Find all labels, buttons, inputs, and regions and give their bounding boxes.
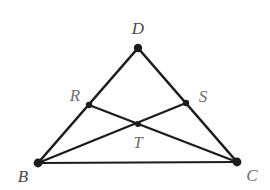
vertex-dot-t (135, 121, 141, 127)
vertex-label-t: T (133, 134, 142, 151)
vertex-dot-b (34, 159, 43, 168)
vertex-label-c: C (246, 167, 257, 184)
vertex-label-s: S (199, 88, 208, 105)
vertex-label-b: B (18, 168, 28, 185)
segment-bc (38, 162, 237, 163)
vertex-dot-c (233, 158, 242, 167)
vertex-dot-s (183, 100, 189, 106)
vertex-dot-r (86, 102, 92, 108)
geometry-figure: DRSTBC (0, 0, 270, 190)
vertex-dot-d (134, 44, 142, 52)
vertex-label-d: D (132, 20, 144, 37)
vertex-label-r: R (70, 87, 80, 104)
